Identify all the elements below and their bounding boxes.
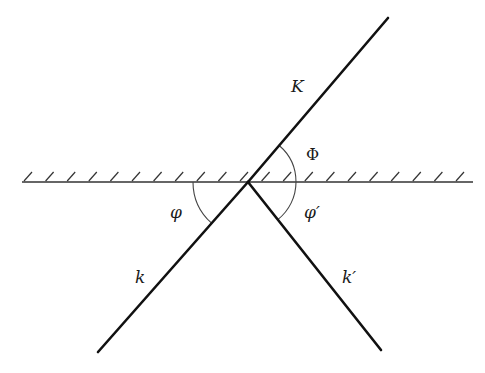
hatch-mark [434, 172, 442, 181]
label-phi-prime: φ′ [304, 202, 320, 222]
hatch-mark [24, 172, 32, 181]
hatch-mark [67, 172, 75, 181]
hatch-mark [348, 172, 356, 181]
angle-arc-phi-prime [278, 182, 296, 220]
hatch-mark [456, 172, 464, 181]
hatch-mark [197, 172, 205, 181]
hatch-mark [132, 172, 140, 181]
hatch-mark [154, 172, 162, 181]
hatch-mark [110, 172, 118, 181]
reflection-diagram: K k k′ Φ φ φ′ [0, 0, 485, 373]
hatch-mark [283, 172, 291, 181]
hatch-mark [46, 172, 54, 181]
hatch-mark [240, 172, 248, 181]
label-k: k [135, 267, 145, 287]
label-k-prime: k′ [342, 267, 356, 287]
label-Phi: Φ [306, 145, 319, 164]
surface-hatching [24, 172, 464, 181]
hatch-mark [262, 172, 270, 181]
hatch-mark [391, 172, 399, 181]
hatch-mark [89, 172, 97, 181]
hatch-mark [305, 172, 313, 181]
hatch-mark [175, 172, 183, 181]
label-K: K [290, 76, 305, 96]
hatch-mark [326, 172, 334, 181]
hatch-mark [413, 172, 421, 181]
hatch-mark [370, 172, 378, 181]
label-phi: φ [170, 202, 182, 222]
angle-arc-phi [193, 182, 212, 223]
hatch-mark [218, 172, 226, 181]
